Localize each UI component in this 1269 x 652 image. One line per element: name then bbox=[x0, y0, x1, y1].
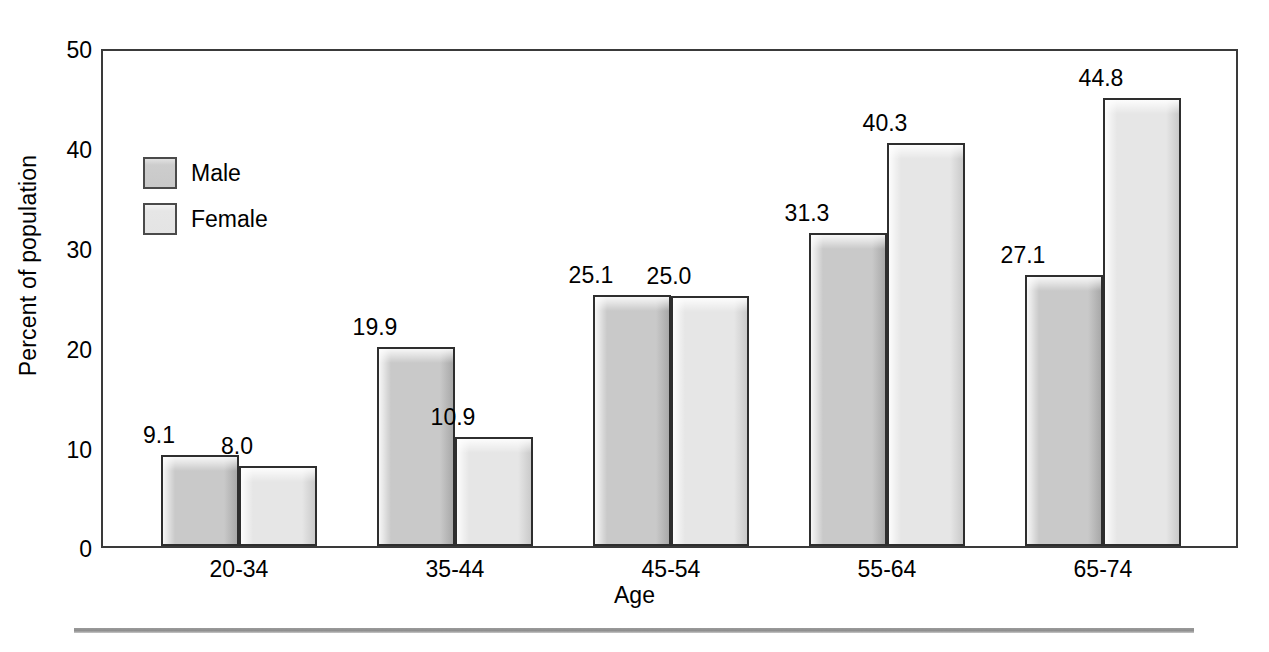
x-tick-label-45-54: 45-54 bbox=[626, 556, 716, 583]
bar-female-45-54 bbox=[671, 296, 749, 546]
legend-item-female: Female bbox=[143, 196, 268, 242]
y-tick-label-20: 20 bbox=[34, 337, 92, 364]
y-tick-label-0: 0 bbox=[34, 536, 92, 563]
bar-female-55-64 bbox=[887, 143, 965, 546]
y-tick-label-10: 10 bbox=[34, 437, 92, 464]
bar-male-55-64 bbox=[809, 233, 887, 546]
bar-value-male-35-44: 19.9 bbox=[330, 314, 420, 341]
bar-bevel bbox=[241, 468, 315, 544]
x-tick-label-55-64: 55-64 bbox=[842, 556, 932, 583]
bar-value-male-20-34: 9.1 bbox=[114, 422, 204, 449]
bar-value-male-45-54: 25.1 bbox=[546, 262, 636, 289]
bar-value-female-35-44: 10.9 bbox=[408, 404, 498, 431]
bar-female-35-44 bbox=[455, 437, 533, 546]
bar-bevel bbox=[379, 349, 453, 544]
bar-value-female-65-74: 44.8 bbox=[1056, 65, 1146, 92]
bar-male-45-54 bbox=[593, 295, 671, 546]
legend: Male Female bbox=[143, 150, 268, 242]
bar-chart-figure: Percent of population 50 40 30 20 10 0 M… bbox=[0, 0, 1269, 652]
bar-female-20-34 bbox=[239, 466, 317, 546]
bar-male-35-44 bbox=[377, 347, 455, 546]
female-swatch-icon bbox=[143, 203, 177, 235]
y-tick-label-30: 30 bbox=[34, 237, 92, 264]
bar-bevel bbox=[1027, 277, 1101, 544]
male-swatch-icon bbox=[143, 157, 177, 189]
x-tick-label-35-44: 35-44 bbox=[410, 556, 500, 583]
bottom-divider bbox=[74, 628, 1194, 633]
bar-bevel bbox=[811, 235, 885, 544]
y-tick-label-40: 40 bbox=[34, 137, 92, 164]
bar-female-65-74 bbox=[1103, 98, 1181, 546]
bar-value-male-65-74: 27.1 bbox=[978, 242, 1068, 269]
bar-bevel bbox=[163, 457, 237, 544]
bar-value-female-20-34: 8.0 bbox=[192, 433, 282, 460]
x-tick-label-20-34: 20-34 bbox=[194, 556, 284, 583]
bar-value-male-55-64: 31.3 bbox=[762, 200, 852, 227]
x-tick-label-65-74: 65-74 bbox=[1058, 556, 1148, 583]
y-tick-label-50: 50 bbox=[34, 37, 92, 64]
bar-bevel bbox=[457, 439, 531, 544]
plot-area: Male Female bbox=[101, 49, 1238, 548]
bar-male-20-34 bbox=[161, 455, 239, 546]
bar-value-female-45-54: 25.0 bbox=[624, 263, 714, 290]
legend-label-male: Male bbox=[191, 160, 241, 187]
legend-label-female: Female bbox=[191, 206, 268, 233]
x-axis-title: Age bbox=[0, 582, 1269, 609]
legend-item-male: Male bbox=[143, 150, 268, 196]
bar-bevel bbox=[673, 298, 747, 544]
bar-bevel bbox=[595, 297, 669, 544]
bar-bevel bbox=[1105, 100, 1179, 544]
bar-value-female-55-64: 40.3 bbox=[840, 110, 930, 137]
bar-male-65-74 bbox=[1025, 275, 1103, 546]
bar-bevel bbox=[889, 145, 963, 544]
